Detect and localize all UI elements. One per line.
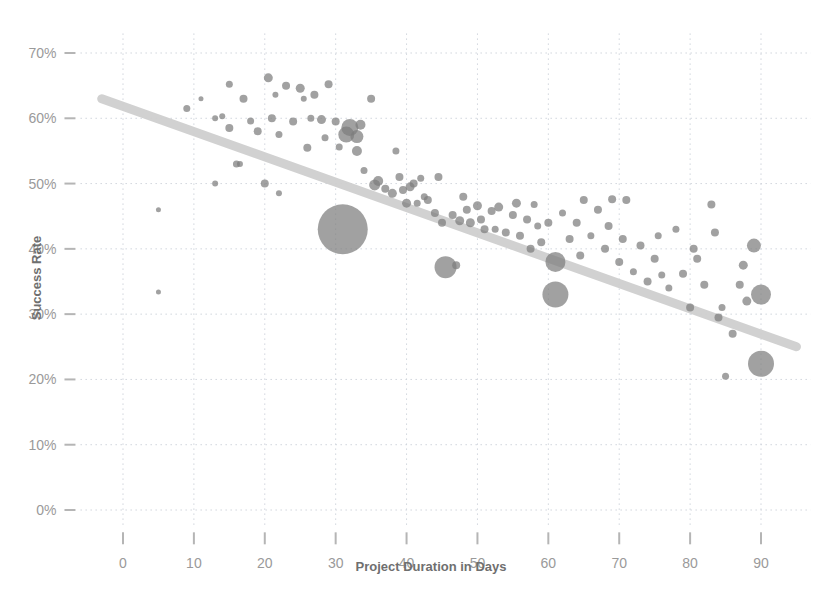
data-point [747,239,761,253]
data-point [381,185,389,193]
data-point [714,313,722,321]
data-point [494,203,503,212]
data-point [424,196,432,204]
data-point [332,118,340,126]
data-point [237,161,243,167]
data-point [527,245,535,253]
data-point [658,271,665,278]
data-point [268,114,276,122]
data-point [707,200,715,208]
y-axis-title: Success Rate [29,236,44,321]
data-point [317,115,326,124]
data-point [183,105,190,112]
data-point [264,73,273,82]
data-point [156,207,161,212]
data-point [655,232,662,239]
bubble-chart: 0%10%20%30%40%50%60%70%01020304050607080… [0,0,822,606]
data-point [665,285,672,292]
x-tick-label: 20 [257,555,273,571]
data-point [355,120,365,130]
data-point [322,134,329,141]
data-point [477,215,485,223]
data-point [275,131,282,138]
data-point [261,180,269,188]
data-point [449,211,457,219]
data-point [254,127,262,135]
data-point [580,196,588,204]
data-point [156,289,161,294]
data-point [455,216,464,225]
data-point [438,219,446,227]
data-point [693,255,701,263]
data-point [225,124,233,132]
data-point [431,209,439,217]
data-point [301,96,307,102]
data-point [531,201,538,208]
data-point [276,190,282,196]
x-tick-label: 30 [328,555,344,571]
data-point [212,115,218,121]
data-point [719,304,726,311]
data-point [542,282,568,308]
data-point [361,167,368,174]
data-point [594,206,602,214]
data-point [534,223,541,230]
data-point [296,84,305,93]
data-point [367,95,375,103]
data-point [619,235,627,243]
data-point [559,209,566,216]
data-point [395,173,403,181]
data-point [622,196,630,204]
data-point [544,219,552,227]
data-point [601,245,609,253]
data-point [630,268,637,275]
data-point [742,297,751,306]
data-point [466,218,475,227]
data-point [402,199,411,208]
x-tick-label: 60 [541,555,557,571]
data-point [615,258,623,266]
data-point [636,242,644,250]
data-point [523,215,531,223]
data-point [307,115,314,122]
data-point [512,199,521,208]
data-point [545,252,565,272]
data-point [373,176,383,186]
data-point [690,245,698,253]
data-point [651,255,659,263]
data-point [310,91,318,99]
data-point [289,118,297,126]
data-point [711,229,719,237]
data-point [686,304,694,312]
data-point [516,232,524,240]
y-tick-label: 10% [28,437,56,453]
data-point [417,175,424,182]
data-point [537,238,545,246]
data-point [212,181,218,187]
data-point [473,201,482,210]
data-point [576,251,584,259]
data-point [566,235,574,243]
data-point [700,281,708,289]
data-point [226,81,233,88]
data-point [679,270,687,278]
data-point [748,351,774,377]
data-point [282,82,290,90]
data-point [502,229,510,237]
data-point [587,232,594,239]
data-point [434,173,442,181]
x-tick-label: 90 [753,555,769,571]
data-point [336,144,343,151]
data-point [350,130,363,143]
x-tick-label: 80 [682,555,698,571]
data-point [452,261,460,269]
x-axis-title: Project Duration in Days [356,559,507,574]
data-point [644,278,652,286]
data-point [414,200,421,207]
data-point [729,330,737,338]
data-point [303,144,311,152]
data-point [247,117,254,124]
data-point [605,222,613,230]
x-tick-label: 0 [119,555,127,571]
data-point [240,95,248,103]
